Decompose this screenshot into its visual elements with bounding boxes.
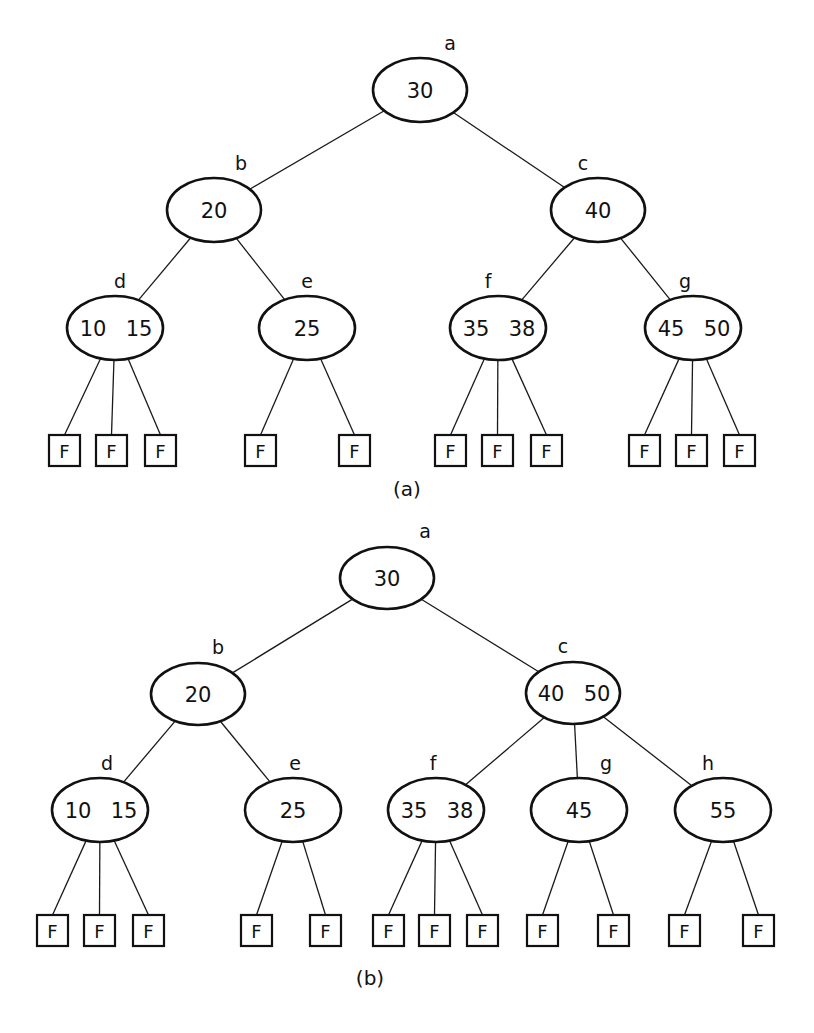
node-name-label: g	[600, 752, 612, 774]
node-name-label: b	[212, 636, 224, 658]
node-name-label: b	[235, 152, 247, 174]
node-key: 35	[401, 799, 428, 823]
failure-edge	[645, 359, 680, 435]
node-key: 20	[185, 683, 212, 707]
failure-edge	[128, 359, 160, 435]
failure-edge	[303, 841, 326, 915]
node-key: 55	[710, 799, 737, 823]
failure-node: F	[145, 435, 176, 466]
failure-node: F	[598, 915, 629, 946]
failure-label: F	[679, 921, 689, 942]
node-name-label: d	[114, 270, 126, 292]
failure-node: F	[373, 915, 404, 946]
tree-node-d: 1015d	[67, 270, 163, 360]
failure-node: F	[669, 915, 700, 946]
failure-edge	[734, 841, 759, 915]
node-name-label: e	[289, 752, 301, 774]
failure-label: F	[753, 921, 763, 942]
failure-label: F	[608, 921, 618, 942]
node-name-label: c	[558, 635, 568, 657]
tree-edge	[138, 238, 190, 300]
failure-label: F	[155, 441, 165, 462]
failure-label: F	[383, 921, 393, 942]
node-key: 40	[585, 199, 612, 223]
tree-node-c: 40c	[551, 152, 645, 242]
failure-edge	[65, 359, 101, 435]
failure-edge	[257, 841, 283, 915]
tree-edge	[603, 717, 691, 786]
node-name-label: h	[702, 752, 714, 774]
failure-edge	[543, 841, 569, 915]
failure-edge	[451, 359, 485, 435]
failure-label: F	[59, 441, 69, 462]
tree-node-a: 30a	[373, 32, 467, 122]
node-key: 15	[111, 799, 138, 823]
tree-node-e: 25e	[245, 752, 341, 842]
node-key: 38	[447, 799, 474, 823]
failure-node: F	[527, 915, 558, 946]
failure-node: F	[482, 435, 513, 466]
tree-edge	[621, 238, 671, 300]
tree-node-c: 4050c	[526, 635, 620, 724]
failure-label: F	[106, 441, 116, 462]
failure-edge	[685, 841, 712, 915]
tree-edge	[522, 238, 575, 300]
tree-edge	[124, 721, 176, 782]
failure-label: F	[477, 921, 487, 942]
failure-edge	[706, 359, 739, 435]
tree-edge	[236, 238, 284, 299]
node-key: 45	[566, 799, 593, 823]
node-key: 30	[407, 79, 434, 103]
failure-label: F	[429, 921, 439, 942]
failure-label: F	[639, 441, 649, 462]
node-name-label: g	[679, 270, 691, 292]
failure-node: F	[96, 435, 127, 466]
failure-label: F	[686, 441, 696, 462]
figure-caption: (b)	[356, 966, 384, 990]
failure-node: F	[84, 915, 115, 946]
two-three-tree-figure: 30a20b40c1015d25e3538f4550gFFFFFFFFFFF(a…	[0, 0, 814, 1033]
failure-label: F	[255, 441, 265, 462]
tree-b: 30a20b4050c1015d25e3538f45g55hFFFFFFFFFF…	[37, 520, 774, 990]
node-key: 20	[201, 199, 228, 223]
failure-edge	[589, 841, 613, 915]
tree-edge	[453, 113, 564, 188]
failure-label: F	[445, 441, 455, 462]
failure-node: F	[339, 435, 370, 466]
failure-label: F	[734, 441, 744, 462]
node-key: 45	[658, 317, 685, 341]
failure-edge	[112, 360, 114, 435]
node-key: 50	[584, 682, 611, 706]
tree-edge	[575, 724, 578, 778]
failure-node: F	[724, 435, 755, 466]
failure-node: F	[629, 435, 660, 466]
failure-node: F	[245, 435, 276, 466]
tree-node-f: 3538f	[450, 270, 546, 360]
node-key: 10	[65, 799, 92, 823]
failure-node: F	[467, 915, 498, 946]
node-key: 25	[280, 799, 307, 823]
failure-node: F	[241, 915, 272, 946]
tree-node-b: 20b	[167, 152, 261, 242]
failure-edge	[261, 359, 294, 435]
tree-node-g: 45g	[531, 752, 627, 842]
tree-node-h: 55h	[675, 752, 771, 842]
node-key: 25	[294, 317, 321, 341]
node-name-label: f	[485, 270, 493, 292]
failure-node: F	[37, 915, 68, 946]
tree-edge	[220, 721, 270, 782]
node-name-label: a	[419, 520, 431, 542]
node-key: 35	[463, 317, 490, 341]
node-key: 15	[126, 317, 153, 341]
node-name-label: d	[101, 752, 113, 774]
failure-label: F	[349, 441, 359, 462]
tree-node-g: 4550g	[645, 270, 741, 360]
tree-node-d: 1015d	[52, 752, 148, 842]
node-name-label: c	[578, 152, 588, 174]
node-name-label: e	[301, 270, 313, 292]
failure-label: F	[143, 921, 153, 942]
tree-edge	[250, 111, 385, 189]
failure-node: F	[133, 915, 164, 946]
failure-label: F	[320, 921, 330, 942]
tree-edge	[232, 599, 352, 673]
